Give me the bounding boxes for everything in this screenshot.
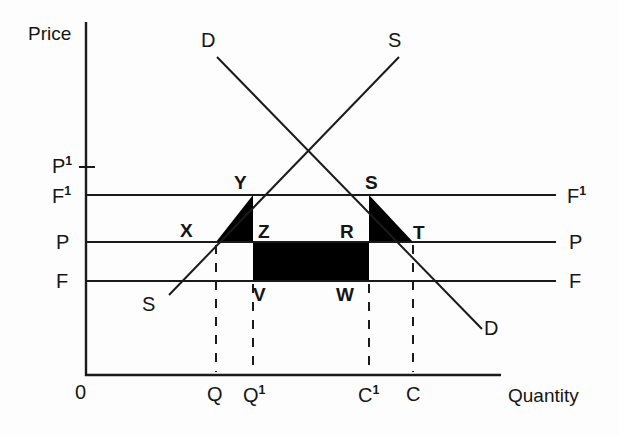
y-tick-label-P1-base: P — [52, 155, 65, 177]
x-tick-label-C1: C1 — [358, 384, 379, 405]
x-tick-label-Q1-sup: 1 — [259, 383, 266, 397]
y-tick-label-P: P — [56, 232, 69, 252]
point-label-V: V — [253, 285, 266, 304]
y-tick-label-F: F — [56, 271, 68, 291]
x-tick-label-Q1: Q1 — [243, 384, 265, 405]
point-label-Y: Y — [234, 173, 247, 192]
right-label-F1-sup: 1 — [579, 184, 586, 198]
point-label-T: T — [413, 223, 425, 242]
point-label-X: X — [180, 221, 193, 240]
right-label-P: P — [569, 232, 582, 252]
y-tick-label-F1: F1 — [52, 185, 71, 206]
diagram-canvas: Price Quantity 0 P1 F1 P F Q Q1 C1 C F1 … — [0, 0, 619, 437]
right-label-P-base: P — [569, 231, 582, 253]
origin-label: 0 — [75, 382, 86, 402]
y-tick-label-F1-base: F — [52, 185, 64, 207]
demand-curve-label-bottom: D — [484, 318, 498, 338]
y-tick-label-F1-sup: 1 — [64, 184, 71, 198]
supply-demand-diagram-svg — [0, 0, 619, 437]
x-axis-title: Quantity — [508, 386, 579, 405]
y-tick-label-P1: P1 — [52, 155, 72, 176]
x-tick-label-Q1-base: Q — [243, 384, 259, 406]
y-tick-label-P1-sup: 1 — [65, 154, 72, 168]
point-label-R: R — [340, 222, 354, 241]
y-tick-label-F-base: F — [56, 270, 68, 292]
y-tick-label-P-base: P — [56, 231, 69, 253]
x-tick-label-Q: Q — [207, 384, 223, 404]
y-axis-title: Price — [28, 24, 71, 43]
demand-curve-label-top: D — [201, 30, 215, 50]
deadweight-triangle-XYZ-shape — [216, 195, 253, 242]
point-label-W: W — [336, 285, 354, 304]
x-tick-label-C: C — [406, 384, 420, 404]
transfer-rectangle-ZRWV-shape — [253, 242, 369, 281]
right-label-F-base: F — [569, 270, 581, 292]
supply-curve-label-top: S — [388, 30, 401, 50]
right-label-F: F — [569, 271, 581, 291]
point-label-Z: Z — [258, 222, 270, 241]
x-tick-label-Q-base: Q — [207, 383, 223, 405]
x-tick-label-C-base: C — [406, 383, 420, 405]
x-tick-label-C1-sup: 1 — [372, 383, 379, 397]
right-label-F1-base: F — [567, 185, 579, 207]
x-tick-label-C1-base: C — [358, 384, 372, 406]
supply-curve-label-bottom: S — [142, 294, 155, 314]
point-label-S: S — [365, 173, 378, 192]
right-label-F1: F1 — [567, 185, 586, 206]
